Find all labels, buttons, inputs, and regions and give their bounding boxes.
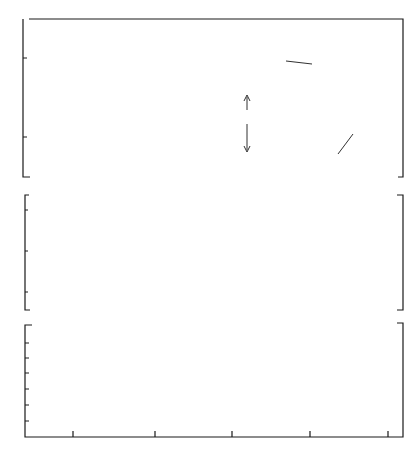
top-panel-frame [29,19,403,177]
leader-total-hourly-wages [286,61,312,64]
top-panel-left-axis [23,19,30,177]
wage-chart-figure [0,0,409,469]
leader-contractual-hourly-wages [338,134,353,154]
middle-panel-right-bracket [397,195,403,310]
bottom-panel-axes [25,323,403,437]
top-panel [23,19,403,177]
bottom-panel-x-ticks [73,431,388,437]
bottom-panel [25,323,403,437]
middle-panel-left-bracket [25,195,30,310]
middle-panel [25,195,403,310]
wage-drift-arrow-icon [244,95,250,152]
